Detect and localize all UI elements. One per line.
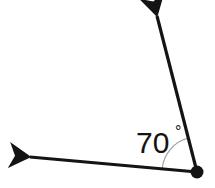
left-ray (30, 157, 197, 172)
angle-diagram-figure: 70 ° (0, 0, 215, 188)
degree-symbol-label: ° (175, 123, 181, 140)
angle-value-label: 70 (136, 126, 169, 159)
vertex-dot (191, 166, 204, 179)
angle-diagram-canvas: 70 ° (0, 0, 215, 188)
